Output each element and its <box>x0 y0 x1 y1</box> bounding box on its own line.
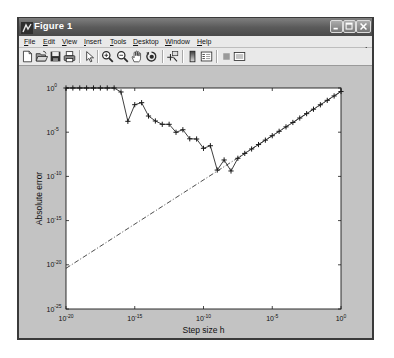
figure-canvas: 10-2010-1510-1010-510010010-510-1010-151… <box>17 66 374 338</box>
zoom-out-icon <box>116 50 129 63</box>
title-bar[interactable]: Figure 1 <box>17 17 374 36</box>
save-icon <box>49 50 62 63</box>
x-axis-label: Step size h <box>182 325 224 335</box>
y-axis-label: Absolute error <box>34 172 44 226</box>
close-icon <box>357 21 370 32</box>
y-tick-label: 10-5 <box>47 126 59 136</box>
insert-legend-button[interactable] <box>200 50 213 63</box>
open-file-icon <box>35 50 48 63</box>
menu-desktop[interactable]: Desktop <box>133 37 159 47</box>
x-tick-label: 100 <box>336 313 347 323</box>
zoom-out-button[interactable] <box>116 50 129 63</box>
zoom-in-button[interactable] <box>101 50 114 63</box>
edit-plot-button[interactable] <box>83 50 96 63</box>
window-title: Figure 1 <box>34 20 73 32</box>
menu-bar: File Edit View Insert Tools Desktop Wind… <box>17 36 374 48</box>
hide-plot-tools-icon <box>220 50 233 63</box>
dock-arrow-icon[interactable] <box>365 39 371 45</box>
print-icon <box>63 50 76 63</box>
zoom-in-icon <box>101 50 114 63</box>
menu-file[interactable]: File <box>24 37 35 47</box>
minimize-button[interactable] <box>330 20 343 33</box>
maximize-icon <box>344 21 355 32</box>
toolbar-separator <box>162 50 164 63</box>
y-tick-label: 10-25 <box>47 303 62 313</box>
x-tick-label: 10-15 <box>127 313 142 323</box>
show-plot-tools-button[interactable] <box>233 50 246 63</box>
x-tick-label: 10-20 <box>58 313 73 323</box>
insert-colorbar-icon <box>186 50 199 63</box>
pan-button[interactable] <box>130 50 143 63</box>
new-figure-button[interactable] <box>21 50 34 63</box>
menu-edit[interactable]: Edit <box>43 37 55 47</box>
edit-plot-arrow-icon <box>83 50 96 63</box>
minimize-icon <box>331 21 342 32</box>
toolbar-separator <box>97 50 99 63</box>
y-tick-label: 10-15 <box>47 215 62 225</box>
data-cursor-button[interactable] <box>166 50 179 63</box>
menu-tools[interactable]: Tools <box>110 37 126 47</box>
insert-legend-icon <box>200 50 213 63</box>
menu-view[interactable]: View <box>62 37 77 47</box>
close-button[interactable] <box>356 20 371 33</box>
menu-insert[interactable]: Insert <box>84 37 102 47</box>
y-tick-label: 10-20 <box>47 259 62 269</box>
plot: 10-2010-1510-1010-510010010-510-1010-151… <box>17 66 374 338</box>
print-button[interactable] <box>63 50 76 63</box>
rotate-3d-button[interactable] <box>145 50 158 63</box>
open-file-button[interactable] <box>35 50 48 63</box>
toolbar-separator <box>182 50 184 63</box>
menu-window[interactable]: Window <box>165 37 190 47</box>
insert-colorbar-button[interactable] <box>186 50 199 63</box>
maximize-button[interactable] <box>343 20 356 33</box>
matlab-figure-icon <box>21 20 33 32</box>
y-tick-label: 100 <box>47 82 58 92</box>
new-figure-icon <box>21 50 34 63</box>
toolbar-separator <box>216 50 218 63</box>
show-plot-tools-icon <box>233 50 246 63</box>
save-button[interactable] <box>49 50 62 63</box>
rotate-3d-icon <box>145 50 158 63</box>
toolbar-separator <box>79 50 81 63</box>
y-tick-label: 10-10 <box>47 170 62 180</box>
figure-window: Figure 1 File Edit View Insert Tools Des… <box>17 17 374 340</box>
data-cursor-icon <box>166 50 179 63</box>
pan-hand-icon <box>130 50 143 63</box>
hide-plot-tools-button[interactable] <box>220 50 233 63</box>
menu-help[interactable]: Help <box>197 37 211 47</box>
x-tick-label: 10-5 <box>266 313 278 323</box>
plot-axes[interactable] <box>66 88 341 309</box>
x-tick-label: 10-10 <box>196 313 211 323</box>
toolbar <box>17 48 374 66</box>
